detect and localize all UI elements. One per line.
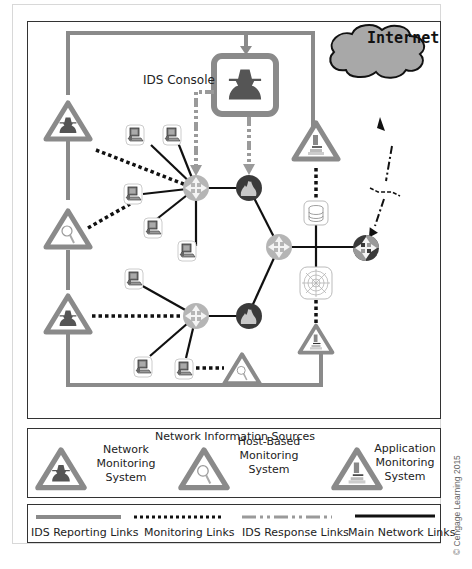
firewall-lower[interactable] [236,303,262,329]
workstation[interactable] [126,125,144,145]
ids-console[interactable] [214,56,276,114]
copyright-notice: © Cengage Learning 2015 [452,455,462,555]
firewall-upper[interactable] [236,175,262,201]
ids-console-label: IDS Console [143,73,215,87]
arrow-down-icon [190,165,202,176]
workstation[interactable] [163,125,181,145]
router-lower-left[interactable] [183,303,209,329]
workstation[interactable] [125,269,143,289]
internet-label: Internet [367,29,439,47]
arrow-down-icon [243,164,255,175]
internet-response-link [375,146,392,226]
ids-reporting-links-label: IDS Reporting Links [31,526,138,539]
application-monitor-lower[interactable] [300,326,333,353]
workstation[interactable] [178,241,196,261]
network-monitoring-label: NetworkMonitoringSystem [86,443,166,485]
application-monitoring-label: ApplicationMonitoringSystem [368,442,442,484]
arrow-up-icon [377,117,385,131]
host-monitor-bottom[interactable] [224,354,259,383]
workstation[interactable] [124,184,142,204]
network-monitoring-legend-icon [38,450,84,488]
workstation[interactable] [134,357,152,377]
router-center[interactable] [266,234,292,260]
ids-response-links-label: IDS Response Links [242,526,349,539]
monitoring-links-label: Monitoring Links [144,526,235,539]
main-network-links-label: Main Network Links [348,526,455,539]
lightning-icon [370,188,400,196]
information-sources-legend: Network Information Sources NetworkMonit… [27,428,441,498]
network-diagram [0,0,472,420]
network-monitor-lower[interactable] [46,296,90,332]
database-server[interactable] [304,201,328,225]
host-monitoring-label: Host-BasedMonitoringSystem [224,435,314,477]
router-upper-left[interactable] [183,175,209,201]
workstation[interactable] [144,218,162,238]
application-monitor-upper[interactable] [294,123,338,159]
host-monitor-left[interactable] [46,211,90,247]
link-types-legend: IDS Reporting Links Monitoring Links IDS… [27,504,441,543]
workstation[interactable] [175,359,193,379]
router-edge[interactable] [353,235,379,261]
host-monitoring-legend-icon [181,450,227,488]
network-monitor-upper[interactable] [46,103,90,139]
web-server[interactable] [300,267,332,299]
